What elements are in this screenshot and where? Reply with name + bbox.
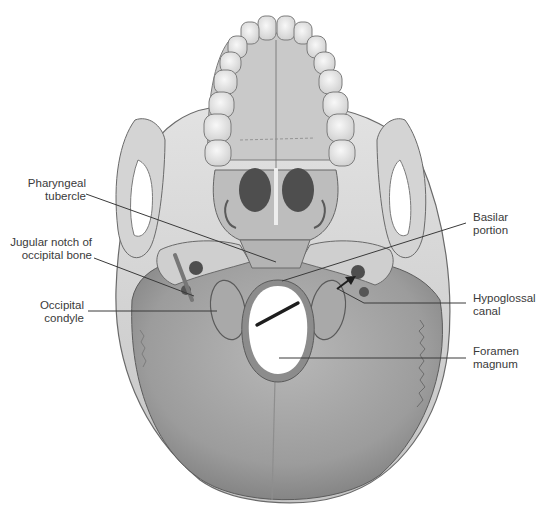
label-text-line: Jugular notch of — [4, 236, 92, 249]
label-text-line: canal — [473, 305, 536, 318]
label-text-line: condyle — [30, 312, 84, 325]
label-text-line: Foramen — [473, 345, 519, 358]
label-text-line: magnum — [473, 358, 519, 371]
label-jugular-notch: Jugular notch of occipital bone — [4, 236, 92, 262]
label-text-line: tubercle — [18, 190, 86, 203]
label-foramen-magnum: Foramen magnum — [473, 345, 519, 371]
label-text-line: Pharyngeal — [18, 177, 86, 190]
label-hypoglossal-canal: Hypoglossal canal — [473, 292, 536, 318]
label-text-line: Basilar — [473, 211, 508, 224]
choanae — [213, 168, 338, 240]
foramen-magnum-shape — [242, 280, 314, 382]
label-occipital-condyle: Occipital condyle — [30, 299, 84, 325]
label-text-line: occipital bone — [4, 249, 92, 262]
label-pharyngeal-tubercle: Pharyngeal tubercle — [18, 177, 86, 203]
label-text-line: portion — [473, 224, 508, 237]
label-text-line: Hypoglossal — [473, 292, 536, 305]
label-basilar-portion: Basilar portion — [473, 211, 508, 237]
label-text-line: Occipital — [30, 299, 84, 312]
